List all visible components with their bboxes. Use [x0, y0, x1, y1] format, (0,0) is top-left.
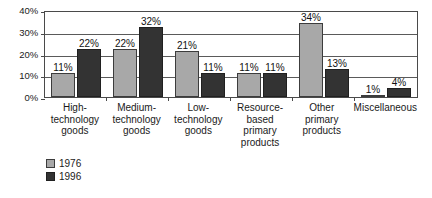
bar-value-label: 32% — [141, 16, 161, 27]
category-label-line: based — [230, 114, 290, 126]
y-axis-labels: 0%10%20%30%40% — [0, 0, 38, 110]
bar-group: 1%4% — [355, 12, 417, 97]
x-axis-tick-mark — [168, 97, 169, 101]
y-axis-tick-label: 10% — [0, 71, 38, 81]
bar-1996[interactable]: 13% — [325, 69, 349, 97]
bar-group: 11%22% — [45, 12, 107, 97]
y-axis-tick-mark — [41, 99, 45, 100]
category-label: Medium-technologygoods — [106, 102, 168, 148]
category-label-line: goods — [168, 125, 228, 137]
category-label-line: technology — [107, 114, 167, 126]
bar-group: 21%11% — [169, 12, 231, 97]
category-label: Resource-basedprimaryproducts — [229, 102, 291, 148]
category-label-line: primary — [230, 125, 290, 137]
y-axis-tick-label: 30% — [0, 28, 38, 38]
legend-swatch-icon — [46, 172, 55, 181]
category-label-line: Other — [292, 102, 352, 114]
x-axis-tick-mark — [106, 97, 107, 101]
category-label-line: products — [292, 125, 352, 137]
bar-value-label: 21% — [177, 40, 197, 51]
bar-value-label: 22% — [79, 38, 99, 49]
bar-group: 22%32% — [107, 12, 169, 97]
bar-value-label: 11% — [265, 62, 284, 73]
bar-value-label: 11% — [203, 62, 222, 73]
bar-1996[interactable]: 32% — [139, 27, 163, 97]
bar-value-label: 1% — [366, 84, 380, 95]
category-label-line: primary — [292, 114, 352, 126]
category-label: Low-technologygoods — [167, 102, 229, 148]
category-label-line: technology — [168, 114, 228, 126]
category-label-line: products — [230, 137, 290, 149]
bar-1996[interactable]: 4% — [387, 88, 411, 97]
bar-1996[interactable]: 11% — [201, 73, 225, 97]
legend-label: 1996 — [59, 171, 81, 182]
bar-groups: 11%22%22%32%21%11%11%11%34%13%1%4% — [45, 12, 417, 97]
bar-pair: 11%11% — [231, 12, 293, 97]
legend-item[interactable]: 1996 — [46, 170, 81, 183]
bar-1976[interactable]: 11% — [51, 73, 75, 97]
bar-1976[interactable]: 21% — [175, 51, 199, 97]
bar-group: 11%11% — [231, 12, 293, 97]
category-label-line: High- — [45, 102, 105, 114]
bar-1976[interactable]: 22% — [113, 49, 137, 97]
bar-1976[interactable]: 34% — [299, 23, 323, 97]
y-axis-tick-label: 20% — [0, 50, 38, 60]
legend-label: 1976 — [59, 158, 81, 169]
y-axis-tick-label: 0% — [0, 93, 38, 103]
x-axis-tick-mark — [292, 97, 293, 101]
bar-1976[interactable]: 1% — [361, 95, 385, 97]
bar-value-label: 22% — [115, 38, 135, 49]
bar-pair: 34%13% — [293, 12, 355, 97]
category-label: Otherprimaryproducts — [291, 102, 353, 148]
bar-value-label: 4% — [392, 77, 406, 88]
chart-legend: 19761996 — [46, 157, 81, 183]
category-label-line: goods — [107, 125, 167, 137]
legend-swatch-icon — [46, 159, 55, 168]
plot-area: 11%22%22%32%21%11%11%11%34%13%1%4% — [44, 11, 418, 98]
x-axis-tick-mark — [354, 97, 355, 101]
bar-value-label: 11% — [53, 62, 72, 73]
bar-group: 34%13% — [293, 12, 355, 97]
bar-1996[interactable]: 11% — [263, 73, 287, 97]
category-label-line: Medium- — [107, 102, 167, 114]
bar-value-label: 11% — [239, 62, 258, 73]
bar-pair: 11%22% — [45, 12, 107, 97]
legend-item[interactable]: 1976 — [46, 157, 81, 170]
y-axis-tick-label: 40% — [0, 6, 38, 16]
category-label-line: Low- — [168, 102, 228, 114]
bar-pair: 21%11% — [169, 12, 231, 97]
bar-chart-screenshot: 0%10%20%30%40% 11%22%22%32%21%11%11%11%3… — [0, 0, 432, 198]
category-label-line: goods — [45, 125, 105, 137]
x-axis-tick-mark — [230, 97, 231, 101]
bar-1996[interactable]: 22% — [77, 49, 101, 97]
category-label-line: Miscellaneous — [354, 102, 417, 114]
bar-pair: 22%32% — [107, 12, 169, 97]
bar-value-label: 34% — [301, 12, 321, 23]
bar-value-label: 13% — [327, 58, 347, 69]
category-label: High-technologygoods — [44, 102, 106, 148]
x-axis-category-labels: High-technologygoodsMedium-technologygoo… — [44, 102, 418, 148]
bar-1976[interactable]: 11% — [237, 73, 261, 97]
category-label-line: technology — [45, 114, 105, 126]
category-label: Miscellaneous — [353, 102, 418, 148]
bar-pair: 1%4% — [355, 12, 417, 97]
category-label-line: Resource- — [230, 102, 290, 114]
